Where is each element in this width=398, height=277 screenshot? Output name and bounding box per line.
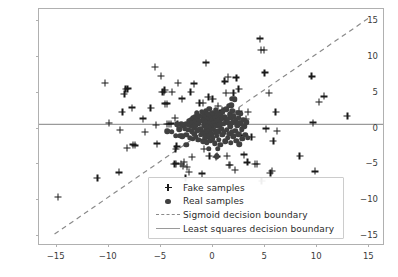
legend-label: Fake samples bbox=[183, 183, 245, 193]
y-tick-label: 0 bbox=[373, 123, 378, 133]
x-tick-mark bbox=[160, 244, 161, 247]
x-tick-mark bbox=[368, 244, 369, 247]
x-tick-mark bbox=[108, 244, 109, 247]
y-tick-mark bbox=[36, 56, 39, 57]
legend-item-fake-samples: Fake samples bbox=[153, 181, 337, 195]
legend-label: Sigmoid decision boundary bbox=[183, 210, 308, 220]
legend-item-sigmoid-boundary: Sigmoid decision boundary bbox=[153, 208, 337, 222]
y-tick-mark bbox=[36, 199, 39, 200]
y-tick-mark bbox=[36, 128, 39, 129]
y-tick-mark bbox=[36, 20, 39, 21]
legend-label: Least squares decision boundary bbox=[183, 224, 334, 234]
legend-item-least-squares-boundary: Least squares decision boundary bbox=[153, 222, 337, 236]
y-tick-mark bbox=[36, 235, 39, 236]
y-tick-mark bbox=[36, 92, 39, 93]
x-tick-mark bbox=[264, 244, 265, 247]
legend-item-real-samples: Real samples bbox=[153, 195, 337, 209]
chart-legend[interactable]: Fake samples Real samples Sigmoid decisi… bbox=[148, 177, 344, 239]
x-tick-mark bbox=[316, 244, 317, 247]
x-tick-label: 0 bbox=[209, 251, 214, 261]
solid-line-icon bbox=[153, 222, 183, 235]
y-tick-label: 5 bbox=[373, 87, 378, 97]
dashed-line-icon bbox=[153, 208, 183, 221]
x-tick-label: 10 bbox=[311, 251, 322, 261]
y-tick-label: −10 bbox=[360, 194, 378, 204]
legend-label: Real samples bbox=[183, 196, 244, 206]
dot-marker-icon bbox=[153, 195, 183, 208]
matplotlib-figure: −15−10−5051015 −15−10−5051015 Fake sampl… bbox=[0, 0, 398, 277]
x-tick-mark bbox=[56, 244, 57, 247]
x-tick-label: 15 bbox=[363, 251, 374, 261]
plus-marker-icon bbox=[153, 181, 183, 194]
x-tick-label: 5 bbox=[261, 251, 266, 261]
y-tick-label: −15 bbox=[360, 230, 378, 240]
x-tick-mark bbox=[212, 244, 213, 247]
x-tick-label: −15 bbox=[47, 251, 65, 261]
x-tick-label: −10 bbox=[99, 251, 117, 261]
y-tick-mark bbox=[36, 163, 39, 164]
x-tick-label: −5 bbox=[154, 251, 167, 261]
y-tick-label: 10 bbox=[367, 51, 378, 61]
y-tick-label: 15 bbox=[367, 15, 378, 25]
y-tick-label: −5 bbox=[365, 158, 378, 168]
